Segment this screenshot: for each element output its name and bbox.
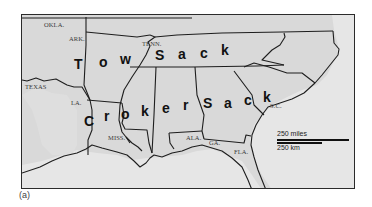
word-sack1-letter-s: S [155,48,164,62]
state-label-la: LA. [71,99,82,106]
scale-bar-miles [277,139,349,141]
word-sack2-letter-k: k [263,90,271,104]
state-label-sc: S.C. [270,102,282,109]
state-label-ga: GA. [209,139,220,146]
word-tow-letter-w: w [120,52,131,66]
word-croker-letter-o: o [121,107,130,121]
state-label-miss: MISS. [108,134,125,141]
state-label-ark: ARK. [69,35,85,42]
border-ala-fla [169,131,202,133]
word-sack1-letter-c: c [200,46,208,60]
word-sack2-letter-c: c [244,93,252,107]
word-tow-letter-t: T [74,57,83,71]
scale-label-miles: 250 miles [277,130,307,137]
border-ark-la [87,100,122,103]
word-sack2-letter-a: a [224,96,232,110]
state-label-tenn: TENN. [142,40,161,47]
word-croker-letter-k: k [141,104,149,118]
texas-shading [22,87,77,155]
border-ark-mo [86,32,150,37]
map-frame: OKLA. ARK. TENN. TEXAS LA. MISS. ALA. GA… [21,14,355,189]
scale-label-km: 250 km [277,144,300,151]
border-miss-ala [152,67,156,153]
border-tenn-ky [155,31,333,37]
word-tow-letter-o: o [99,55,108,69]
state-label-texas: TEXAS [25,83,46,90]
border-fla-panhandle [169,133,174,149]
word-sack2-letter-s: S [203,96,212,110]
mississippi-delta [126,137,142,151]
border-tenn-nc [262,33,285,65]
state-label-okla: OKLA. [44,21,64,28]
word-croker-letter-r: r [104,109,109,123]
state-label-fla: FLA. [234,148,248,155]
figure-caption: (a) [19,190,30,200]
word-croker-letter-e: e [162,101,170,115]
word-croker-letter-r2: r [183,98,188,112]
word-sack1-letter-a: a [178,47,186,61]
state-label-ala: ALA. [186,134,201,141]
border-okla-ark [84,17,90,100]
word-croker-letter-c: C [84,114,94,128]
word-sack1-letter-k: k [221,43,229,57]
